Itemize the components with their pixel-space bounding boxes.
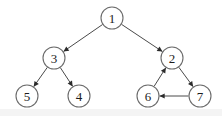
arrowhead-icon [68,81,73,87]
graph-node-5[interactable]: 5 [16,85,38,107]
graph-node-7[interactable]: 7 [189,85,211,107]
arrowhead-icon [34,81,39,87]
graph-edge-2-to-7 [179,67,193,86]
graph-node-6[interactable]: 6 [137,85,159,107]
graph-node-2[interactable]: 2 [161,47,183,69]
arrowhead-icon [188,81,193,87]
arrowhead-icon [161,68,166,74]
graph-node-4[interactable]: 4 [68,85,90,107]
graph-diagram-canvas: 1325467 [0,0,222,116]
graph-edge-3-to-4 [60,68,72,87]
graph-edge-1-to-3 [63,25,102,52]
arrowhead-icon [157,47,163,52]
graph-edge-1-to-2 [122,24,163,51]
graph-edge-3-to-5 [34,67,48,86]
arrowhead-icon [160,93,165,98]
arrowhead-icon [63,46,69,51]
node-label-7: 7 [197,89,204,104]
graph-edge-6-to-2 [154,68,166,87]
graph-edge-7-to-6 [160,93,189,98]
node-label-3: 3 [51,51,58,66]
graph-node-3[interactable]: 3 [43,47,65,69]
node-label-5: 5 [24,89,31,104]
node-layer: 1325467 [16,7,211,107]
node-label-6: 6 [145,89,152,104]
node-label-1: 1 [109,11,116,26]
node-label-2: 2 [169,51,176,66]
graph-svg: 1325467 [0,0,222,116]
node-label-4: 4 [76,89,83,104]
graph-node-1[interactable]: 1 [101,7,123,29]
